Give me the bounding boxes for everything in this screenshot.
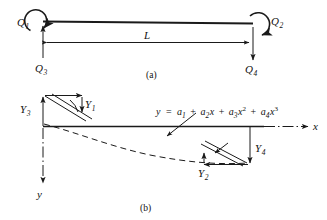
- label-y4: Y4: [255, 142, 266, 157]
- label-q3: Q3: [35, 62, 47, 77]
- label-y2: Y2: [198, 167, 209, 182]
- label-q4: Q4: [245, 63, 257, 78]
- label-y1: Y1: [85, 98, 95, 113]
- label-q2: Q2: [271, 15, 283, 30]
- label-q1: Q1: [17, 16, 29, 31]
- label-length-l: L: [143, 29, 150, 41]
- caption-a: (a): [146, 70, 157, 81]
- rotation-slope-right: [201, 141, 247, 166]
- label-axis-y: y: [36, 188, 42, 200]
- label-axis-x: x: [312, 120, 318, 132]
- figure-svg: Q1 Q2 Q3 Q4 L (a): [0, 0, 327, 220]
- figure-container: Q1 Q2 Q3 Q4 L (a): [0, 0, 327, 220]
- beam-member-a: [43, 22, 253, 24]
- label-y3: Y3: [20, 103, 31, 118]
- panel-b: Y3 Y1 Y2 Y4 x y y = a1 + a2x + a3x2 + a4…: [20, 94, 318, 214]
- equation-cubic: y = a1 + a2x + a3x2 + a4x3: [155, 102, 278, 120]
- panel-a: Q1 Q2 Q3 Q4 L (a): [17, 10, 283, 81]
- deflection-curve: [44, 124, 248, 164]
- caption-b: (b): [140, 203, 151, 214]
